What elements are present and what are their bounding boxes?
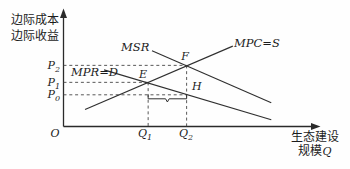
- point-label-h: H: [191, 80, 202, 93]
- point-label-e: E: [138, 68, 147, 81]
- x-axis-title-line1: 生态建设: [291, 130, 339, 144]
- y-axis-title-line1: 边际成本: [11, 13, 59, 27]
- curve-label-mpr: MPR=D: [70, 65, 118, 79]
- economics-diagram: 边际成本 边际收益 生态建设 规模Q MSR MPC=S MPR=D E F H…: [0, 0, 350, 169]
- x-tick-q1: Q1: [138, 127, 152, 142]
- diagram-canvas: 边际成本 边际收益 生态建设 规模Q MSR MPC=S MPR=D E F H…: [0, 0, 350, 169]
- curve-label-mpc: MPC=S: [233, 36, 280, 50]
- y-tick-p2: P2: [47, 59, 61, 74]
- origin-label: O: [50, 127, 59, 140]
- curve-label-msr: MSR: [120, 40, 150, 54]
- x-tick-q2: Q2: [179, 127, 193, 142]
- y-axis-arrow-icon: [60, 9, 67, 19]
- interval-brace: [148, 95, 186, 102]
- point-label-f: F: [180, 50, 189, 63]
- plot-lines: [64, 46, 272, 126]
- x-axis-arrow-icon: [311, 123, 321, 130]
- y-axis-title-line2: 边际收益: [11, 29, 59, 43]
- x-axis-title-line2: 规模Q: [298, 143, 331, 158]
